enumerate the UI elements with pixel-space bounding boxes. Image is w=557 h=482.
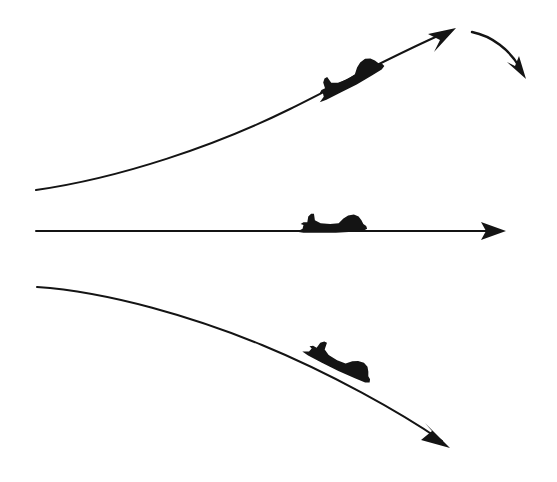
aircraft-climbing xyxy=(311,52,386,103)
aircraft-layer xyxy=(297,52,386,386)
climb-path-line xyxy=(36,31,449,190)
aircraft-silhouette-shape xyxy=(311,52,386,103)
descent-path-line xyxy=(37,287,442,441)
descent-flight-path-group xyxy=(37,287,450,448)
aircraft-descending xyxy=(302,335,377,386)
level-flight-path-group xyxy=(36,222,506,240)
climb-arrowhead-icon xyxy=(428,28,456,52)
diagram-canvas xyxy=(0,0,557,482)
aircraft-silhouette-shape xyxy=(297,214,367,233)
aircraft-level xyxy=(297,214,367,233)
recovery-arrowhead-icon xyxy=(507,56,526,79)
recovery-curve-line xyxy=(472,32,520,68)
descent-arrowhead-icon xyxy=(421,423,450,448)
climb-flight-path-group xyxy=(36,28,456,190)
flight-path-figure xyxy=(0,0,557,482)
aircraft-silhouette-shape xyxy=(302,335,377,386)
recovery-curved-arrow-group xyxy=(472,32,526,79)
